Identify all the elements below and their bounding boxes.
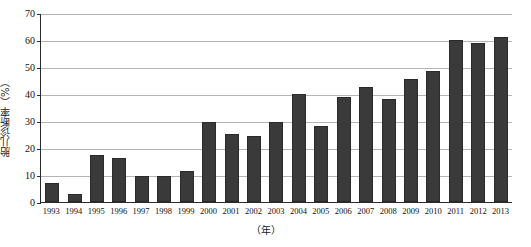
- bar-slot: [445, 14, 467, 202]
- y-axis-tick-label: 30: [25, 117, 35, 127]
- bar-slot: [86, 14, 108, 202]
- bar: [449, 40, 463, 202]
- x-axis-tick-label: 2009: [400, 205, 422, 219]
- bar: [337, 97, 351, 202]
- x-axis-tick-label: 2005: [310, 205, 332, 219]
- x-axis-tick-label: 2004: [287, 205, 309, 219]
- bar: [426, 71, 440, 202]
- x-axis-tick-label: 2011: [444, 205, 466, 219]
- x-axis-tick-label: 2012: [467, 205, 489, 219]
- y-axis-tick-label: 20: [25, 144, 35, 154]
- bar: [494, 37, 508, 202]
- x-axis-tick-label: 2002: [242, 205, 264, 219]
- bar: [404, 79, 418, 202]
- y-axis-tick-label: 70: [25, 9, 35, 19]
- x-axis-tick-label: 2001: [220, 205, 242, 219]
- bar: [382, 99, 396, 202]
- y-axis-tick-label: 50: [25, 63, 35, 73]
- bar-slot: [41, 14, 63, 202]
- y-axis-tick-label: 10: [25, 171, 35, 181]
- x-axis-tick-label: 2000: [197, 205, 219, 219]
- bar-series: [41, 14, 512, 202]
- bar: [292, 94, 306, 202]
- bar: [225, 134, 239, 202]
- x-axis-tick-label: 2013: [489, 205, 511, 219]
- bar-slot: [288, 14, 310, 202]
- bar: [269, 122, 283, 202]
- bar: [359, 87, 373, 202]
- x-axis-tick-label: 1998: [152, 205, 174, 219]
- x-axis-tick-label: 1994: [62, 205, 84, 219]
- bar: [135, 176, 149, 202]
- x-axis-tick-label: 1995: [85, 205, 107, 219]
- bar-slot: [467, 14, 489, 202]
- bar-slot: [220, 14, 242, 202]
- bar-slot: [400, 14, 422, 202]
- y-axis-tick-labels: 010203040506070: [16, 14, 38, 203]
- y-axis-tick-label: 0: [30, 198, 35, 208]
- bar: [180, 171, 194, 202]
- x-axis-tick-label: 2006: [332, 205, 354, 219]
- x-axis-tick-label: 1997: [130, 205, 152, 219]
- bar: [68, 194, 82, 202]
- y-axis-title: 胎儿诊断率（%）: [0, 52, 16, 182]
- bar-slot: [176, 14, 198, 202]
- bar: [314, 126, 328, 202]
- bar: [247, 136, 261, 202]
- bar-slot: [243, 14, 265, 202]
- bar-chart: 胎儿诊断率（%） 010203040506070 199319941995199…: [0, 0, 531, 247]
- x-axis-tick-label: 2007: [355, 205, 377, 219]
- y-axis-tick-label: 60: [25, 36, 35, 46]
- x-axis-tick-label: 1999: [175, 205, 197, 219]
- y-axis-tick-label: 40: [25, 90, 35, 100]
- bar-slot: [63, 14, 85, 202]
- bar-slot: [108, 14, 130, 202]
- bar: [202, 122, 216, 202]
- bar: [157, 176, 171, 202]
- x-axis-tick-labels: 1993199419951996199719981999200020012002…: [40, 205, 512, 219]
- x-axis-tick-label: 2010: [422, 205, 444, 219]
- x-axis-caption: （年）: [0, 225, 531, 237]
- x-axis-tick-label: 2008: [377, 205, 399, 219]
- bar-slot: [153, 14, 175, 202]
- bar-slot: [422, 14, 444, 202]
- bar: [90, 155, 104, 202]
- y-axis-tick-mark: [37, 203, 41, 204]
- bar: [471, 43, 485, 202]
- bar-slot: [310, 14, 332, 202]
- bar-slot: [377, 14, 399, 202]
- x-axis-tick-label: 1996: [107, 205, 129, 219]
- bar-slot: [198, 14, 220, 202]
- bar: [112, 158, 126, 202]
- x-axis-tick-label: 2003: [265, 205, 287, 219]
- bar-slot: [332, 14, 354, 202]
- bar-slot: [131, 14, 153, 202]
- x-axis-tick-label: 1993: [40, 205, 62, 219]
- bar-slot: [355, 14, 377, 202]
- bar-slot: [265, 14, 287, 202]
- plot-area: [40, 14, 512, 203]
- bar: [45, 183, 59, 202]
- bar-slot: [489, 14, 511, 202]
